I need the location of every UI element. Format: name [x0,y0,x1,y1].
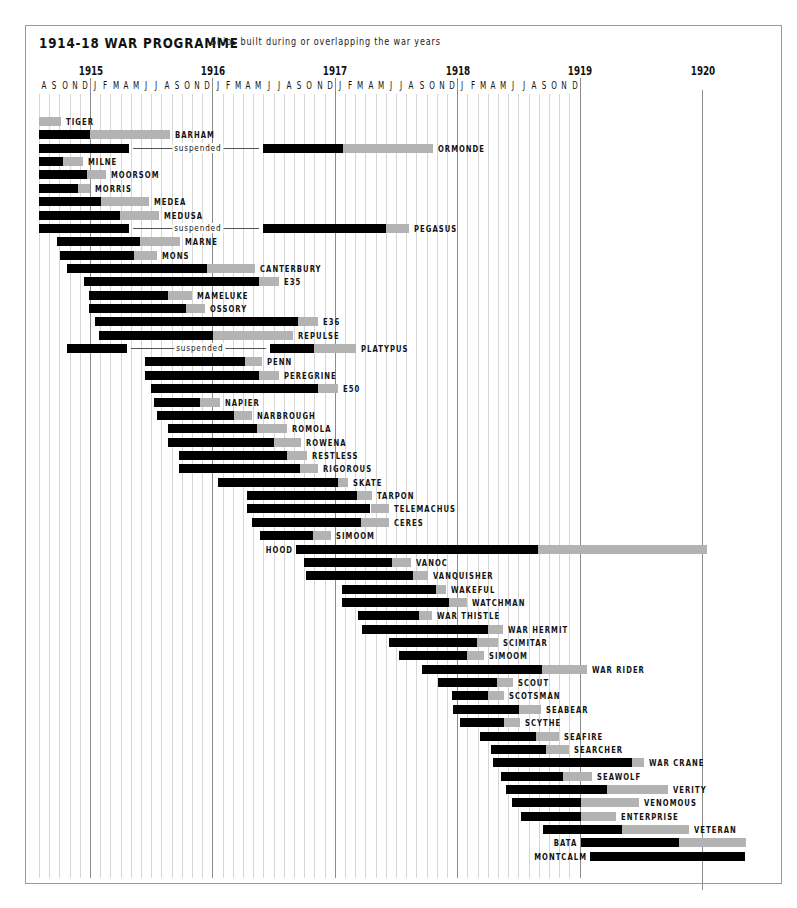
month-label: F [101,80,109,91]
month-label: D [81,80,89,91]
suspended-label: suspended [175,343,226,353]
month-label: S [418,80,426,91]
fitting-bar [259,371,278,380]
year-label: 1916 [201,64,225,78]
build-bar [145,371,259,380]
build-bar [39,211,120,220]
fitting-bar [563,772,592,781]
ship-label: SKATE [353,478,382,488]
month-label: A [163,80,171,91]
ship-label: CANTERBURY [260,264,322,274]
build-bar [581,838,679,847]
month-label: S [50,80,58,91]
suspended-label: suspended [173,223,224,233]
build-bar [480,732,536,741]
fitting-bar [101,197,149,206]
month-label: J [214,80,222,91]
build-bar [460,718,504,727]
build-bar [99,331,213,340]
build-bar [270,344,315,353]
fitting-bar [357,491,371,500]
build-bar [39,157,63,166]
ship-label: ORMONDE [438,144,485,154]
build-bar [342,598,449,607]
ship-label: SCIMITAR [503,638,548,648]
month-label: N [193,80,201,91]
grid-line [437,94,438,878]
fitting-bar [536,732,559,741]
ship-label: MONTCALM [534,852,587,862]
build-bar [512,798,580,807]
ship-label: OSSORY [210,304,247,314]
build-bar [95,317,298,326]
grid-line [447,94,448,878]
ship-label: VETERAN [694,825,737,835]
build-bar [89,291,168,300]
fitting-bar [313,531,330,540]
ship-label: NARBROUGH [257,411,316,421]
fitting-bar [488,691,504,700]
ship-label: MAMELUKE [197,291,249,301]
fitting-bar [467,651,483,660]
fitting-bar [538,545,707,554]
fitting-bar [234,411,252,420]
fitting-bar [120,211,160,220]
month-label: J [265,80,273,91]
month-label: D [448,80,456,91]
fitting-bar [386,224,409,233]
grid-line [488,94,489,878]
year-label: 1920 [690,64,714,78]
grid-line [478,94,479,878]
month-label: J [91,80,99,91]
ship-label: SCYTHE [525,718,561,728]
ship-label: TARPON [377,491,414,501]
ship-label: WAR HERMIT [508,625,568,635]
month-label: M [377,80,385,91]
fitting-bar [78,184,90,193]
build-bar [521,812,580,821]
build-bar [39,144,129,153]
ship-label: BARHAM [175,130,215,140]
build-bar [39,184,78,193]
fitting-bar [343,144,433,153]
build-bar [151,384,318,393]
month-label: M [356,80,364,91]
ship-label: PENN [267,357,292,367]
ship-label: WAKEFUL [451,585,495,595]
month-label: M [499,80,507,91]
ship-label: MARNE [185,237,218,247]
ship-label: REPULSE [298,331,340,341]
fitting-bar [504,718,520,727]
build-bar [506,785,607,794]
ship-label: ROWENA [306,438,347,448]
build-bar [263,224,385,233]
month-label: J [520,80,528,91]
ship-label: SEAWOLF [597,772,641,782]
ship-label: PLATYPUS [361,344,409,354]
month-label: N [560,80,568,91]
month-label: F [469,80,477,91]
fitting-bar [581,798,639,807]
build-bar [39,130,90,139]
month-label: O [183,80,191,91]
build-bar [247,504,370,513]
ship-label: E36 [323,317,340,327]
ship-label: VERITY [673,785,707,795]
ship-label: SEARCHER [574,745,623,755]
build-bar [168,424,258,433]
build-bar [60,251,133,260]
build-bar [168,438,274,447]
month-label: S [295,80,303,91]
build-bar [399,651,467,660]
month-label: O [61,80,69,91]
fitting-bar [257,424,287,433]
month-label: S [173,80,181,91]
build-bar [252,518,361,527]
fitting-bar [87,170,106,179]
ship-label: SEABEAR [546,705,589,715]
ship-label: ROMOLA [292,424,332,434]
build-bar [543,825,623,834]
month-label: A [244,80,252,91]
fitting-bar [300,464,318,473]
build-bar [67,344,127,353]
